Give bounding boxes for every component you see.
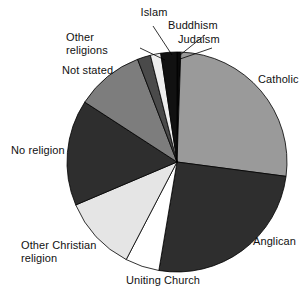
slice-label-other-religions: Other religions [66,31,128,56]
slice-label-catholic: Catholic [258,73,307,86]
slice-label-anglican: Anglican [253,235,307,248]
pie-chart: Islam Buddhism Judaism Other religions N… [0,0,307,296]
slice-label-no-religion: No religion [11,144,81,157]
pie-slice-catholic[interactable] [177,52,287,176]
slice-label-other-christian: Other Christian religion [21,239,109,264]
slice-label-judaism: Judaism [178,33,240,46]
pie-slice-anglican[interactable] [159,162,286,272]
slice-label-not-stated: Not stated [62,64,134,77]
slice-label-islam: Islam [131,6,177,19]
slice-label-uniting-church: Uniting Church [113,274,213,287]
slice-label-buddhism: Buddhism [168,19,230,32]
